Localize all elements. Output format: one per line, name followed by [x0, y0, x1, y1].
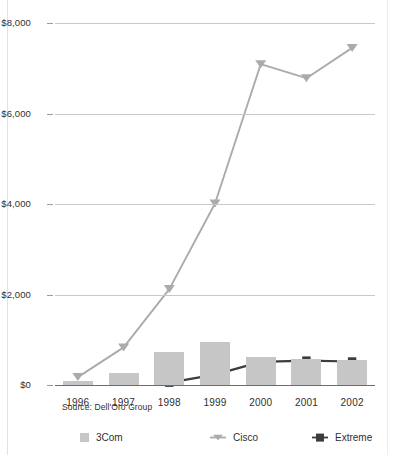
- legend-label: Extreme: [335, 432, 372, 443]
- marker-cisco: [255, 60, 266, 68]
- y-axis-tick-label: $8,000: [0, 17, 31, 28]
- y-axis-tick-label: $2,000: [0, 289, 31, 300]
- y-tick-mark: [47, 295, 53, 296]
- line-cisco: [78, 48, 352, 377]
- legend-bar-swatch-icon: [80, 433, 89, 442]
- y-axis-tick-label: $0: [0, 379, 31, 390]
- bar-3com: [154, 352, 184, 385]
- bar-3com: [63, 381, 93, 385]
- legend-item-3com[interactable]: 3Com: [80, 432, 123, 443]
- y-tick-mark: [47, 204, 53, 205]
- x-axis-tick-label: 2002: [329, 397, 375, 408]
- source-note: Source: Dell'Oro Group: [62, 402, 152, 412]
- plot-area: $0$2,000$4,000$6,000$8,00019961997199819…: [55, 16, 375, 392]
- x-axis-tick-label: 1999: [192, 397, 238, 408]
- gridline: [55, 295, 375, 296]
- gridline: [55, 114, 375, 115]
- bar-3com: [291, 359, 321, 385]
- legend-square-marker-icon: [312, 433, 328, 442]
- legend-label: Cisco: [233, 432, 258, 443]
- chart-legend: 3ComCiscoExtreme: [60, 432, 380, 450]
- gridline: [55, 23, 375, 24]
- y-tick-mark: [47, 23, 53, 24]
- legend-item-cisco[interactable]: Cisco: [210, 432, 258, 443]
- marker-cisco: [72, 373, 83, 381]
- bar-3com: [200, 342, 230, 385]
- x-axis-line: [55, 385, 375, 386]
- y-axis-tick-label: $4,000: [0, 198, 31, 209]
- x-axis-tick-label: 2001: [283, 397, 329, 408]
- x-axis-tick-label: 1998: [146, 397, 192, 408]
- y-tick-mark: [47, 114, 53, 115]
- page-edge-right: [387, 0, 388, 455]
- y-tick-mark: [47, 385, 53, 386]
- marker-cisco: [301, 74, 312, 82]
- marker-cisco: [164, 285, 175, 293]
- legend-label: 3Com: [96, 432, 123, 443]
- x-axis-tick-label: 2000: [238, 397, 284, 408]
- legend-item-extreme[interactable]: Extreme: [312, 432, 372, 443]
- bar-3com: [337, 360, 367, 385]
- legend-triangle-marker-icon: [210, 433, 226, 442]
- chart-figure: $0$2,000$4,000$6,000$8,00019961997199819…: [0, 0, 393, 455]
- gridline: [55, 204, 375, 205]
- bar-3com: [246, 357, 276, 385]
- bar-3com: [109, 373, 139, 385]
- y-axis-tick-label: $6,000: [0, 108, 31, 119]
